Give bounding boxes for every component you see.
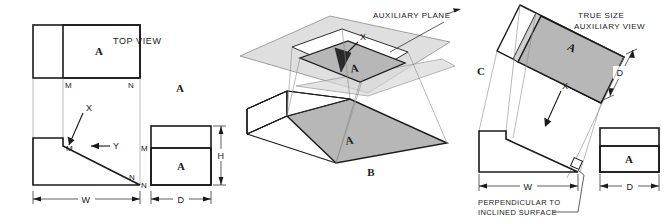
height-dimension-label: H [217, 151, 224, 161]
front-view-corner-m: M [66, 144, 73, 153]
projected-surface-label: A [350, 62, 360, 75]
panel-c-width-dimension: W [479, 174, 578, 192]
object-left-face [247, 91, 287, 134]
auxiliary-plane-callout: AUXILIARY PLANE [373, 11, 450, 20]
note-line1: PERPENDICULAR TO [478, 198, 560, 207]
panel-c-key-label: C [477, 65, 485, 77]
top-view-surface-label: A [95, 45, 103, 57]
width-dimension-label: W [81, 195, 90, 205]
panel-a-y-arrow: Y [91, 141, 120, 151]
panel-a-group: A M N TOP VIEW M N X [33, 25, 228, 205]
panel-a-x-arrow: X [68, 103, 93, 145]
side-view-outline [151, 126, 211, 185]
note-line2: INCLINED SURFACE [478, 208, 557, 217]
panel-a-depth-dimension: D [151, 191, 211, 205]
top-view-title: TOP VIEW [113, 36, 161, 46]
panel-a-front-view: M N [33, 138, 140, 185]
side-view-surface-label: A [625, 153, 633, 165]
panel-c-group: TRUE SIZE AUXILIARY VIEW A [477, 5, 659, 217]
panel-c-side-depth-dimension: D [600, 174, 659, 192]
panel-c-x-arrow: X [544, 81, 568, 127]
front-view-outline [479, 131, 578, 172]
front-view-corner-n: N [129, 173, 135, 182]
width-dimension-label: W [523, 182, 532, 192]
panel-a-side-view: A M N [141, 126, 211, 190]
side-view-corner-n: N [141, 181, 147, 190]
x-arrow-label: X [360, 32, 367, 42]
panel-c-front-view [479, 131, 582, 172]
aux-depth-dimension-label: D [616, 68, 623, 78]
panel-b-group: A X AUXILIARY PLANE A [240, 8, 461, 178]
technical-figure: A M N TOP VIEW M N X [0, 0, 668, 223]
top-view-outline [33, 25, 140, 78]
panel-a-key-label: A [176, 82, 184, 94]
top-view-corner-n: N [128, 81, 134, 90]
panel-c-view-title: TRUE SIZE AUXILIARY VIEW [574, 11, 645, 31]
aux-view-title-line2: AUXILIARY VIEW [574, 22, 645, 31]
front-view-outline [33, 138, 140, 185]
side-depth-dimension-label: D [626, 182, 633, 192]
y-arrowhead [91, 143, 99, 149]
x-arrow-label: X [86, 103, 93, 113]
side-view-surface-label: A [177, 160, 185, 172]
panel-a-width-dimension: W [33, 191, 140, 205]
depth-dimension-label: D [177, 195, 184, 205]
right-angle-marker [571, 158, 583, 170]
side-view-outline [600, 128, 659, 172]
panel-a-top-view: A M N TOP VIEW [33, 25, 161, 90]
top-view-corner-m: M [65, 81, 72, 90]
panel-c-note: PERPENDICULAR TO INCLINED SURFACE [478, 170, 584, 217]
aux-view-title-line1: TRUE SIZE [578, 11, 624, 20]
side-view-corner-m: M [141, 144, 148, 153]
x-arrow-label: X [562, 81, 569, 91]
figure-canvas: A M N TOP VIEW M N X [0, 0, 668, 223]
panel-c-side-view: A [600, 128, 659, 172]
panel-b-key-label: B [367, 166, 375, 178]
panel-b-object: A [247, 91, 447, 163]
y-arrow-label: Y [113, 141, 120, 151]
panel-a-projection-lines [33, 78, 140, 185]
panel-a-height-dimension: H [213, 126, 228, 185]
